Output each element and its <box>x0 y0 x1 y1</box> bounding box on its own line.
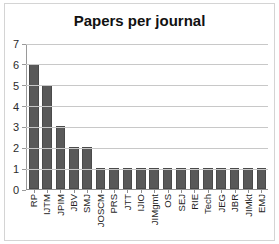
x-label-slot: PRS <box>108 192 121 242</box>
x-label-slot: EMJ <box>255 192 268 242</box>
bar <box>243 168 253 189</box>
x-label-slot: SEJ <box>175 192 188 242</box>
x-axis-tick-label: JEG <box>217 194 227 212</box>
y-tick-mark <box>22 148 26 149</box>
bar-slot <box>134 44 147 189</box>
x-axis-tick-label: Tech <box>204 194 214 214</box>
bar <box>56 126 66 189</box>
y-axis-tick-label: 6 <box>13 59 19 70</box>
x-axis-labels: RPIJTMJPIMJBVSMJJOSCMPRSJTTIJIOJIMgmtOSS… <box>27 192 269 242</box>
bar-slot <box>107 44 120 189</box>
x-label-slot: OS <box>161 192 174 242</box>
y-axis-tick-label: 5 <box>13 80 19 91</box>
bar <box>203 168 213 189</box>
y-axis: 01234567 <box>0 44 22 190</box>
y-axis-tick-label: 1 <box>13 164 19 175</box>
y-tick-mark <box>22 190 26 191</box>
bar <box>96 168 106 189</box>
x-axis-tick-label: JIMkt <box>244 194 254 217</box>
x-label-slot: RIE <box>188 192 201 242</box>
bar-slot <box>241 44 254 189</box>
y-axis-tick-label: 7 <box>13 39 19 50</box>
x-label-slot: IJTM <box>40 192 53 242</box>
x-axis-tick-label: OS <box>163 194 173 208</box>
chart-title: Papers per journal <box>0 12 279 29</box>
bar-slot <box>174 44 187 189</box>
x-axis-tick-label: RP <box>29 194 39 207</box>
bar-slot <box>201 44 214 189</box>
y-axis-tick-label: 3 <box>13 122 19 133</box>
x-label-slot: JTT <box>121 192 134 242</box>
bar <box>230 168 240 189</box>
bar-slot <box>40 44 53 189</box>
bar <box>257 168 267 189</box>
plot-area <box>26 44 268 190</box>
bar <box>109 168 119 189</box>
x-axis-tick-label: IJTM <box>42 194 52 215</box>
bar-slot <box>54 44 67 189</box>
bar-slot <box>148 44 161 189</box>
bar-slot <box>121 44 134 189</box>
y-tick-mark <box>22 169 26 170</box>
x-axis-line <box>26 189 268 190</box>
bar <box>163 168 173 189</box>
y-axis-tick-label: 4 <box>13 101 19 112</box>
bar <box>136 168 146 189</box>
x-label-slot: JBR <box>229 192 242 242</box>
bar <box>216 168 226 189</box>
bar <box>190 168 200 189</box>
bar <box>176 168 186 189</box>
bar-slot <box>255 44 268 189</box>
bar-slot <box>67 44 80 189</box>
x-label-slot: JOSCM <box>94 192 107 242</box>
x-axis-tick-label: JOSCM <box>96 194 106 227</box>
x-axis-tick-label: RIE <box>190 194 200 210</box>
gridline <box>26 85 268 86</box>
x-label-slot: JBV <box>67 192 80 242</box>
bar-slot <box>27 44 40 189</box>
x-label-slot: JIMgmt <box>148 192 161 242</box>
bar-slot <box>161 44 174 189</box>
x-axis-tick-label: SEJ <box>177 194 187 211</box>
x-axis-tick-label: PRS <box>110 194 120 214</box>
x-label-slot: JEG <box>215 192 228 242</box>
bar-slot <box>81 44 94 189</box>
x-axis-tick-label: EMJ <box>257 194 267 213</box>
x-axis-tick-label: SMJ <box>83 194 93 213</box>
bar-series <box>27 44 268 189</box>
bar-slot <box>228 44 241 189</box>
bar <box>42 85 52 189</box>
gridline <box>26 148 268 149</box>
x-label-slot: SMJ <box>81 192 94 242</box>
gridline <box>26 64 268 65</box>
x-axis-tick-label: JPIM <box>56 194 66 216</box>
x-label-slot: JPIM <box>54 192 67 242</box>
y-tick-mark <box>22 44 26 45</box>
y-tick-mark <box>22 85 26 86</box>
bar-slot <box>188 44 201 189</box>
bar <box>123 168 133 189</box>
bar <box>149 168 159 189</box>
x-axis-tick-label: JBV <box>69 194 79 211</box>
x-axis-tick-label: JBR <box>231 194 241 212</box>
x-label-slot: IJIO <box>135 192 148 242</box>
x-axis-tick-label: JIMgmt <box>150 194 160 225</box>
y-tick-mark <box>22 64 26 65</box>
y-tick-mark <box>22 127 26 128</box>
x-label-slot: JIMkt <box>242 192 255 242</box>
x-axis-tick-label: JTT <box>123 194 133 210</box>
gridline <box>26 127 268 128</box>
x-axis-tick-label: IJIO <box>136 194 146 211</box>
bar-slot <box>94 44 107 189</box>
bar-slot <box>214 44 227 189</box>
gridline <box>26 169 268 170</box>
y-axis-tick-label: 0 <box>13 185 19 196</box>
x-label-slot: RP <box>27 192 40 242</box>
gridline <box>26 44 268 45</box>
y-axis-tick-label: 2 <box>13 143 19 154</box>
chart-container: Papers per journal 01234567 RPIJTMJPIMJB… <box>0 0 279 244</box>
gridline <box>26 106 268 107</box>
y-tick-mark <box>22 106 26 107</box>
x-label-slot: Tech <box>202 192 215 242</box>
